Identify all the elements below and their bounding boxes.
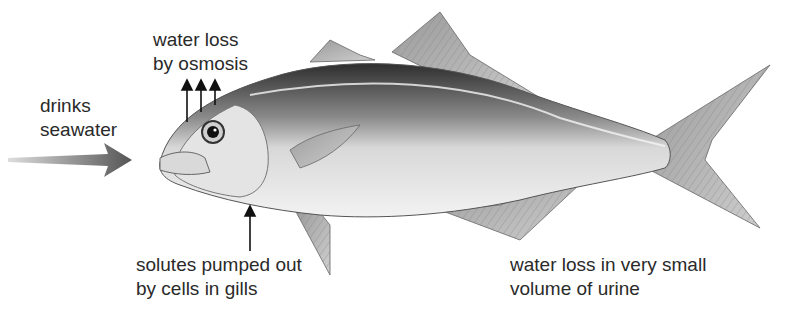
eye: [202, 121, 224, 143]
label-line: water loss: [153, 28, 248, 52]
water-loss-osmosis-label: water loss by osmosis: [153, 28, 248, 76]
label-line: by cells in gills: [136, 277, 302, 301]
label-line: volume of urine: [510, 277, 706, 301]
label-line: seawater: [40, 118, 117, 142]
label-line: by osmosis: [153, 52, 248, 76]
solutes-gills-label: solutes pumped out by cells in gills: [136, 253, 302, 301]
gills-arrow: [245, 206, 255, 251]
drinks-seawater-label: drinks seawater: [40, 94, 117, 142]
label-line: water loss in very small: [510, 253, 706, 277]
drinks-seawater-arrow: [8, 143, 132, 177]
urine-water-loss-label: water loss in very small volume of urine: [510, 253, 706, 301]
fish-osmoregulation-diagram: drinks seawater water loss by osmosis so…: [0, 0, 796, 320]
label-line: solutes pumped out: [136, 253, 302, 277]
label-line: drinks: [40, 94, 117, 118]
